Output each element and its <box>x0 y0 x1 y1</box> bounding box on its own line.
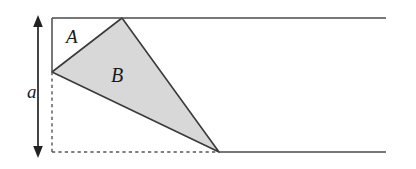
label-dimension-a: a <box>27 82 37 101</box>
figure-canvas <box>0 0 416 169</box>
label-region-a: A <box>66 27 78 46</box>
geometry-figure: A B a <box>0 0 416 169</box>
label-region-b: B <box>111 65 123 85</box>
